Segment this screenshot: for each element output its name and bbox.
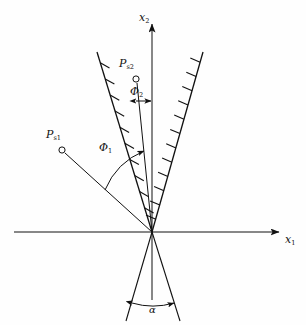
axis-x2-label: x2 [139, 12, 149, 23]
wedge-left-hatching [100, 63, 153, 213]
wedge-right-boundary [146, 52, 203, 232]
point-label-ps1-sub: s1 [53, 134, 61, 142]
point-marker-ps2 [133, 76, 139, 82]
point-marker-ps1 [59, 147, 65, 153]
axis-x1-label-sub: 1 [291, 239, 295, 247]
point-label-ps1: Ps1 [46, 129, 61, 140]
point-label-ps2-sub: s2 [126, 63, 134, 71]
angle-label-phi2: Φ2 [130, 86, 143, 97]
ray-ps1-line [65, 153, 152, 232]
angle-label-phi1: Φ1 [99, 142, 112, 153]
axis-x1-label: x1 [285, 234, 295, 245]
wedge-lower-right-leg [152, 232, 180, 321]
angle-label-phi2-text: Φ [130, 85, 139, 98]
wedge-crack-diagram: x2 x1 Ps2 Ps1 Φ1 Φ2 α [0, 0, 306, 325]
ray-ps2 [133, 76, 152, 232]
angle-label-phi1-text: Φ [99, 141, 108, 154]
angle-label-alpha: α [149, 305, 156, 315]
angle-label-phi1-sub: 1 [108, 147, 112, 155]
angle-label-phi2-sub: 2 [139, 91, 143, 99]
angle-label-alpha-text: α [149, 304, 156, 315]
angle-phi1-arc [105, 151, 144, 190]
axis-x2-label-sub: 2 [145, 17, 149, 25]
angle-phi1-arc-path [105, 151, 144, 190]
wedge-right-hatching [146, 58, 200, 219]
point-label-ps2: Ps2 [119, 58, 134, 69]
diagram-canvas [0, 0, 306, 325]
